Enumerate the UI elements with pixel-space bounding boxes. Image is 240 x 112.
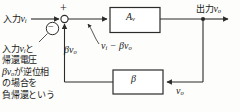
label-output: 出力vo: [196, 4, 221, 15]
label-minus-sign: −: [48, 22, 54, 33]
label-amplifier-gain: Av: [126, 12, 135, 23]
note-line: βvoが逆位相: [2, 67, 55, 78]
label-feedback-factor: β: [131, 74, 136, 85]
note-line: 帰還電圧: [2, 55, 55, 66]
diagram-canvas: 入力vi 出力vo + − Av β βvo vi − βvo vo 入力viと…: [0, 0, 240, 112]
label-difference-signal: vi − βvo: [101, 41, 132, 52]
summing-junction: [61, 15, 68, 22]
note-line: 入力viと: [2, 44, 55, 55]
label-plus-sign: +: [60, 2, 67, 15]
amplifier-block: [110, 8, 160, 33]
note-line: 負帰還という: [2, 90, 55, 101]
label-output-sense: vo: [176, 86, 184, 97]
annotation-note: 入力viと 帰還電圧 βvoが逆位相 の場合を 負帰還という: [2, 44, 55, 101]
label-feedback-voltage: βvo: [64, 45, 77, 56]
leader-difference-signal: [88, 24, 99, 44]
label-input: 入力vi: [3, 14, 26, 25]
leader-minus-to-note: [39, 34, 48, 43]
note-line: の場合を: [2, 78, 55, 89]
feedback-block: [113, 70, 163, 94]
